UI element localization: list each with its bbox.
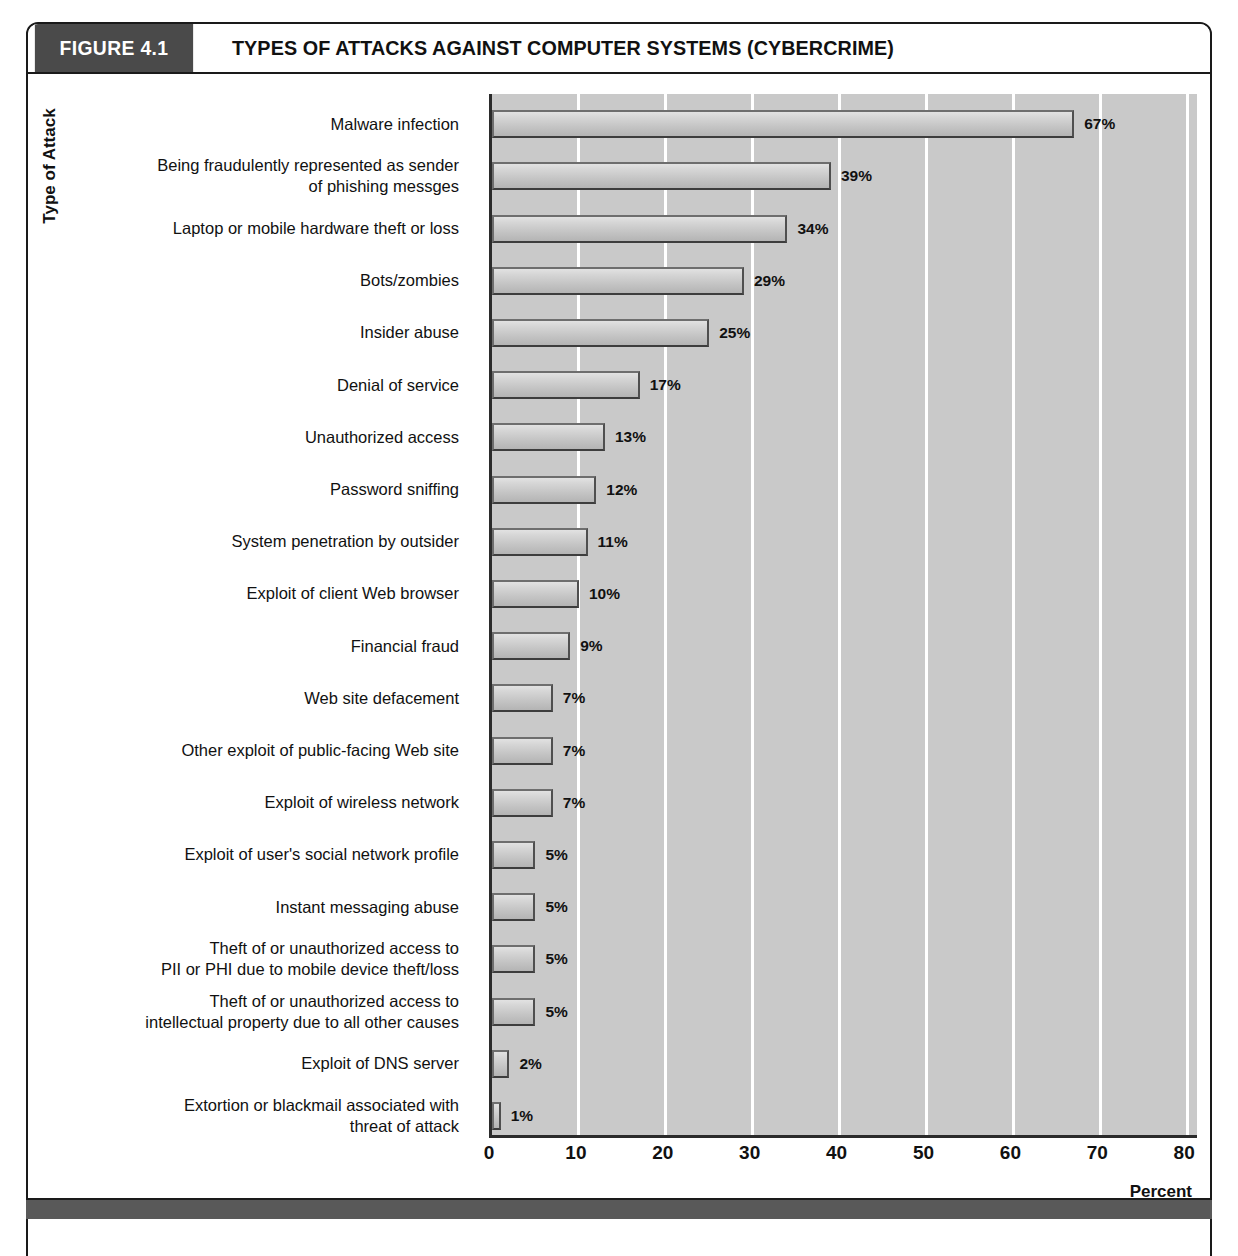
x-tick-80: 80 xyxy=(1174,1142,1195,1164)
bar-row: 17% xyxy=(492,371,1200,399)
bar-row: 9% xyxy=(492,632,1200,660)
x-tick-50: 50 xyxy=(913,1142,934,1164)
figure-title: TYPES OF ATTACKS AGAINST COMPUTER SYSTEM… xyxy=(200,24,1149,72)
category-label: Extortion or blackmail associated withth… xyxy=(34,1095,481,1137)
bar-row: 7% xyxy=(492,737,1200,765)
bar xyxy=(492,423,605,451)
x-tick-30: 30 xyxy=(739,1142,760,1164)
category-label: Exploit of wireless network xyxy=(34,792,481,813)
category-label-column: Malware infectionBeing fraudulently repr… xyxy=(56,94,481,1138)
bar-value-label: 67% xyxy=(1084,115,1115,133)
bar-value-label: 25% xyxy=(719,324,750,342)
bar-value-label: 5% xyxy=(545,950,567,968)
bar xyxy=(492,1102,501,1130)
bar xyxy=(492,893,535,921)
bar-row: 11% xyxy=(492,528,1200,556)
bar-row: 5% xyxy=(492,998,1200,1026)
category-label: Insider abuse xyxy=(34,322,481,343)
bar-row: 10% xyxy=(492,580,1200,608)
gridline-10 xyxy=(577,94,580,1135)
bar-value-label: 9% xyxy=(580,637,602,655)
gridline-30 xyxy=(751,94,754,1135)
gridline-20 xyxy=(664,94,667,1135)
figure-footer-bar xyxy=(26,1200,1212,1219)
category-label: Password sniffing xyxy=(34,479,481,500)
gridline-60 xyxy=(1012,94,1015,1135)
bar-row: 34% xyxy=(492,215,1200,243)
bar-value-label: 7% xyxy=(563,689,585,707)
bar xyxy=(492,215,787,243)
bar-value-label: 7% xyxy=(563,742,585,760)
category-label: Financial fraud xyxy=(34,636,481,657)
figure-frame: FIGURE 4.1 TYPES OF ATTACKS AGAINST COMP… xyxy=(26,22,1212,1200)
bar-row: 7% xyxy=(492,684,1200,712)
x-tick-60: 60 xyxy=(1000,1142,1021,1164)
bar xyxy=(492,737,553,765)
category-label: System penetration by outsider xyxy=(34,531,481,552)
bar xyxy=(492,319,709,347)
bar-row: 25% xyxy=(492,319,1200,347)
bar-row: 12% xyxy=(492,476,1200,504)
bar-value-label: 5% xyxy=(545,898,567,916)
bar-row: 29% xyxy=(492,267,1200,295)
figure-footer-area xyxy=(26,1219,1212,1256)
category-label: Malware infection xyxy=(34,114,481,135)
bar-row: 2% xyxy=(492,1050,1200,1078)
bar xyxy=(492,580,579,608)
x-tick-40: 40 xyxy=(826,1142,847,1164)
gridline-70 xyxy=(1099,94,1102,1135)
bar-value-label: 11% xyxy=(598,533,628,551)
bar-value-label: 5% xyxy=(545,846,567,864)
x-tick-20: 20 xyxy=(652,1142,673,1164)
plot-area: 67%39%34%29%25%17%13%12%11%10%9%7%7%7%5%… xyxy=(489,94,1197,1138)
category-label: Theft of or unauthorized access toPII or… xyxy=(34,938,481,980)
bar-row: 1% xyxy=(492,1102,1200,1130)
x-axis-title: Percent xyxy=(1130,1182,1192,1202)
bar xyxy=(492,632,570,660)
x-axis-tick-labels: 01020304050607080 xyxy=(489,1142,1197,1172)
bar-row: 67% xyxy=(492,110,1200,138)
bar xyxy=(492,684,553,712)
category-label: Instant messaging abuse xyxy=(34,897,481,918)
bar xyxy=(492,110,1074,138)
category-label: Exploit of user's social network profile xyxy=(34,844,481,865)
gridline-50 xyxy=(925,94,928,1135)
bar xyxy=(492,1050,509,1078)
bar-value-label: 34% xyxy=(797,220,828,238)
bar-value-label: 5% xyxy=(545,1003,567,1021)
bar xyxy=(492,789,553,817)
bar xyxy=(492,371,640,399)
category-label: Web site defacement xyxy=(34,688,481,709)
category-label: Laptop or mobile hardware theft or loss xyxy=(34,218,481,239)
bar xyxy=(492,528,588,556)
category-label: Theft of or unauthorized access tointell… xyxy=(34,991,481,1033)
bar-value-label: 2% xyxy=(519,1055,541,1073)
bar-value-label: 13% xyxy=(615,428,646,446)
category-label: Bots/zombies xyxy=(34,270,481,291)
category-label: Denial of service xyxy=(34,375,481,396)
bar xyxy=(492,841,535,869)
bar-value-label: 39% xyxy=(841,167,872,185)
gridline-40 xyxy=(838,94,841,1135)
bar-row: 39% xyxy=(492,162,1200,190)
category-label: Being fraudulently represented as sender… xyxy=(34,155,481,197)
bar xyxy=(492,267,744,295)
bar-value-label: 12% xyxy=(606,481,637,499)
gridline-80 xyxy=(1186,94,1189,1135)
bar-row: 13% xyxy=(492,423,1200,451)
bar-value-label: 10% xyxy=(589,585,620,603)
category-label: Exploit of client Web browser xyxy=(34,583,481,604)
category-label: Exploit of DNS server xyxy=(34,1053,481,1074)
x-tick-70: 70 xyxy=(1087,1142,1108,1164)
bar-value-label: 17% xyxy=(650,376,681,394)
bar-row: 7% xyxy=(492,789,1200,817)
bar xyxy=(492,476,596,504)
x-tick-10: 10 xyxy=(565,1142,586,1164)
x-tick-0: 0 xyxy=(484,1142,495,1164)
bar-value-label: 1% xyxy=(511,1107,533,1125)
bar xyxy=(492,945,535,973)
bar xyxy=(492,998,535,1026)
category-label: Unauthorized access xyxy=(34,427,481,448)
bar xyxy=(492,162,831,190)
bar-value-label: 7% xyxy=(563,794,585,812)
